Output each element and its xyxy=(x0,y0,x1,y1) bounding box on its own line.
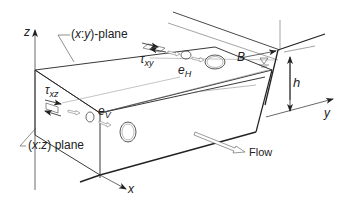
horizontal-shear-element xyxy=(142,43,166,52)
open-channel-flow-diagram: z x y (x:y)-plane (x:z) plane τxy eH τxz xyxy=(0,0,348,206)
y-axis-label: y xyxy=(323,106,331,120)
fluid-control-volume xyxy=(35,47,275,182)
small-eddy-icon xyxy=(86,112,94,122)
flow-label: Flow xyxy=(249,146,272,158)
width-dimension xyxy=(240,51,276,58)
vertical-shear-element xyxy=(45,100,61,116)
e-v-label: eV xyxy=(98,104,112,120)
flow-arrow xyxy=(194,132,245,153)
e-h-label: eH xyxy=(178,63,192,79)
depth-label-h: h xyxy=(293,75,300,90)
x-axis xyxy=(100,175,126,189)
eddy-transfer-arrows-horizontal xyxy=(168,51,225,69)
large-eddy-icon xyxy=(120,122,136,142)
xz-plane-label: (x:z) plane xyxy=(28,138,84,152)
tau-xy-label: τxy xyxy=(140,52,154,68)
z-axis-label: z xyxy=(23,25,30,39)
small-eddy-icon xyxy=(181,51,191,59)
x-axis-label: x xyxy=(127,182,135,196)
width-label-b: B xyxy=(237,50,245,64)
xy-plane-label: (x:y)-plane xyxy=(71,27,128,41)
large-eddy-icon xyxy=(205,55,225,69)
tau-xz-label: τxz xyxy=(45,83,59,99)
y-axis xyxy=(266,99,333,117)
